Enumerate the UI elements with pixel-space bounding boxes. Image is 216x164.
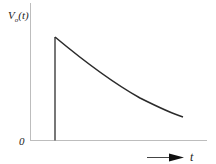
y-axis-label: Vo(t) [8, 9, 29, 24]
time-arrow-icon [169, 154, 184, 162]
decay-diagram: Vo(t) 0 t [0, 0, 216, 164]
x-axis-label: t [190, 150, 194, 164]
origin-label: 0 [19, 135, 25, 147]
decay-curve [55, 37, 183, 117]
